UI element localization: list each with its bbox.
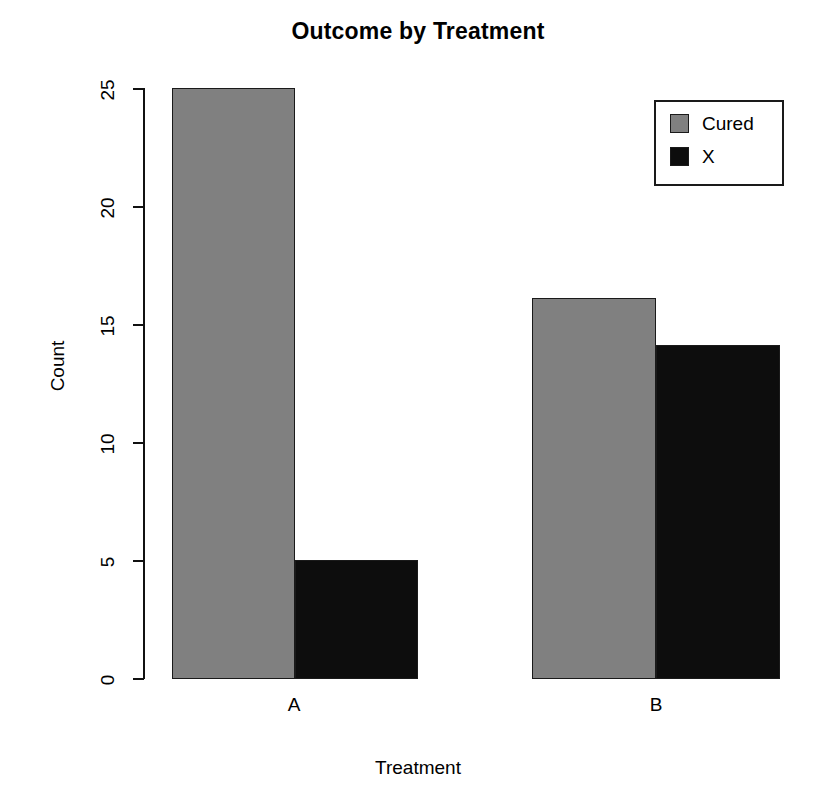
- legend-label-x: X: [702, 147, 715, 166]
- legend-label-cured: Cured: [702, 114, 754, 133]
- bar-b-x: [656, 345, 780, 679]
- legend-item-x: X: [670, 147, 715, 166]
- bar-a-x: [295, 560, 418, 679]
- bar-b-cured: [532, 298, 656, 679]
- bar-chart-figure: Outcome by Treatment 25 20 15 10 5 0 Cou…: [0, 0, 836, 805]
- legend-swatch-x: [670, 147, 689, 166]
- legend-swatch-cured: [670, 114, 689, 133]
- x-axis-title: Treatment: [0, 757, 836, 779]
- legend-item-cured: Cured: [670, 114, 754, 133]
- legend: Cured X: [654, 100, 784, 186]
- x-tick-label-b: B: [626, 694, 686, 716]
- bar-a-cured: [172, 88, 295, 679]
- x-tick-label-a: A: [264, 694, 324, 716]
